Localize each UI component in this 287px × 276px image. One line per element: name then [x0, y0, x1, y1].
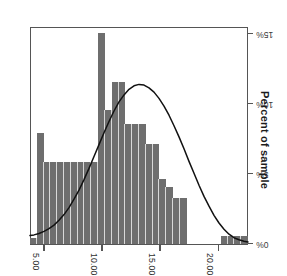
- category-axis-tick-label: 5.00: [31, 253, 41, 271]
- category-axis-tick: [101, 245, 102, 251]
- value-axis-tick-label: 15%: [256, 30, 287, 40]
- curve-path: [30, 84, 248, 242]
- category-axis-tick-label: 10.00: [89, 253, 99, 276]
- value-axis-tick-label: 0%: [256, 240, 287, 250]
- value-axis-tick: [248, 243, 253, 244]
- distribution-curve: [30, 27, 248, 244]
- value-axis-title: Percent of sample: [259, 92, 271, 190]
- category-axis-tick: [43, 245, 44, 251]
- category-axis-tick: [218, 245, 219, 251]
- value-axis-tick: [248, 103, 253, 104]
- category-axis-tick: [159, 245, 160, 251]
- category-axis-tick-label: 20.00: [205, 253, 215, 276]
- value-axis-tick: [248, 173, 253, 174]
- value-axis-tick: [248, 33, 253, 34]
- category-axis-tick-label: 15.00: [147, 253, 157, 276]
